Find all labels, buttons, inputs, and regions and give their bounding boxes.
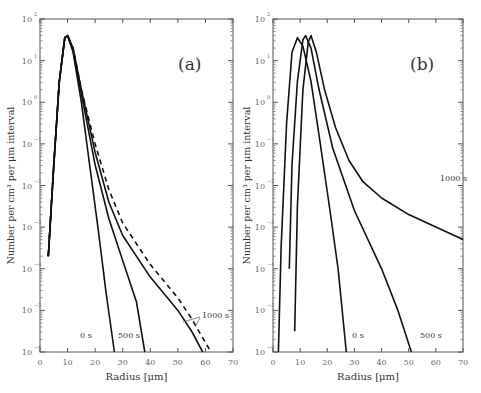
curve-label: 1000 s — [202, 311, 229, 320]
y-tick-label: 10 — [22, 265, 32, 274]
y-tick-label: 10 — [22, 306, 32, 315]
y-tick-label: 10 — [22, 348, 32, 357]
y-tick-label: 10 — [22, 140, 32, 149]
curve-label: 0 s — [80, 331, 92, 340]
y-tick-label: 10 — [255, 182, 265, 191]
panel-label: (a) — [178, 54, 201, 74]
y-tick-label: 10 — [255, 306, 265, 315]
x-tick-label: 30 — [349, 358, 359, 367]
y-tick-label: 10 — [255, 140, 265, 149]
curve-label: 1000 s — [440, 174, 467, 183]
curve-label: 500 s — [118, 331, 140, 340]
y-tick-label: 10 — [22, 98, 32, 107]
svg-text:0: 0 — [267, 94, 270, 100]
x-tick-label: 50 — [173, 358, 183, 367]
x-axis-label: Radius [μm] — [337, 371, 399, 382]
y-tick-label: 10 — [255, 15, 265, 24]
x-tick-label: 40 — [376, 358, 386, 367]
figure: 01020304050607010−610−510−410−310−210−11… — [0, 0, 481, 393]
svg-text:1: 1 — [267, 53, 270, 59]
svg-text:−4: −4 — [267, 261, 274, 267]
svg-text:−5: −5 — [267, 302, 274, 308]
x-tick-label: 20 — [322, 358, 332, 367]
svg-text:−3: −3 — [267, 219, 274, 225]
svg-text:2: 2 — [34, 11, 37, 17]
svg-text:0: 0 — [34, 94, 37, 100]
x-tick-label: 70 — [458, 358, 468, 367]
y-axis-label: Number per cm³ per μm interval — [5, 107, 16, 265]
y-tick-label: 10 — [22, 15, 32, 24]
panel-label: (b) — [410, 54, 434, 74]
x-tick-label: 30 — [118, 358, 128, 367]
series-line — [48, 36, 145, 352]
svg-text:1: 1 — [34, 53, 37, 59]
y-tick-label: 10 — [22, 57, 32, 66]
curve-label: 0 s — [352, 331, 364, 340]
y-axis-label: Number per cm³ per μm interval — [241, 107, 252, 265]
svg-text:−1: −1 — [267, 136, 274, 142]
curve-label: 500 s — [420, 331, 442, 340]
svg-text:−2: −2 — [267, 178, 274, 184]
panel-b: 01020304050607010−610−510−410−310−210−11… — [241, 11, 468, 382]
svg-text:−3: −3 — [34, 219, 41, 225]
y-tick-label: 10 — [255, 98, 265, 107]
x-tick-label: 60 — [200, 358, 210, 367]
series-line — [48, 36, 114, 352]
series-line — [295, 36, 463, 332]
series-line — [48, 36, 211, 352]
y-tick-label: 10 — [255, 223, 265, 232]
svg-text:−2: −2 — [34, 178, 41, 184]
x-tick-label: 70 — [228, 358, 238, 367]
svg-text:−4: −4 — [34, 261, 41, 267]
x-tick-label: 0 — [270, 358, 275, 367]
panel-a: 01020304050607010−610−510−410−310−210−11… — [5, 11, 238, 382]
y-tick-label: 10 — [255, 57, 265, 66]
y-tick-label: 10 — [255, 348, 265, 357]
svg-text:−5: −5 — [34, 302, 41, 308]
svg-text:−6: −6 — [267, 344, 274, 350]
series-line — [48, 36, 202, 352]
y-tick-label: 10 — [22, 223, 32, 232]
x-tick-label: 10 — [62, 358, 72, 367]
x-axis-label: Radius [μm] — [106, 371, 168, 382]
x-tick-label: 20 — [90, 358, 100, 367]
x-tick-label: 60 — [431, 358, 441, 367]
x-tick-label: 40 — [145, 358, 155, 367]
y-tick-label: 10 — [255, 265, 265, 274]
series-line — [278, 38, 346, 352]
svg-text:−6: −6 — [34, 344, 41, 350]
x-tick-label: 10 — [295, 358, 305, 367]
series-line — [289, 36, 411, 352]
svg-text:2: 2 — [267, 11, 270, 17]
x-tick-label: 50 — [404, 358, 414, 367]
y-tick-label: 10 — [22, 182, 32, 191]
x-tick-label: 0 — [37, 358, 42, 367]
svg-text:−1: −1 — [34, 136, 41, 142]
